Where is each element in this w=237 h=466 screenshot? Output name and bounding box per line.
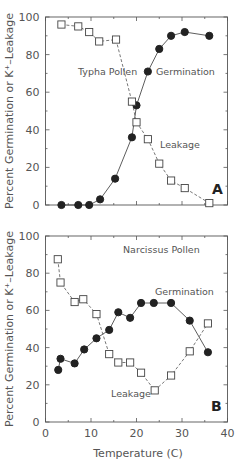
x-axis-title: Temperature (C) xyxy=(92,447,182,460)
x-tick-label: 10 xyxy=(84,427,98,440)
leakage-point xyxy=(156,160,163,167)
leakage-point xyxy=(167,372,174,379)
panel-b-title: Narcissus Pollen xyxy=(123,244,200,255)
y-tick-label: 100 xyxy=(19,11,40,24)
germination-point xyxy=(112,175,119,182)
germination-point xyxy=(71,360,78,367)
germination-point xyxy=(127,314,134,321)
y-tick-label: 0 xyxy=(33,199,40,212)
germination-point xyxy=(57,355,64,362)
leakage-point xyxy=(106,351,113,358)
germination-point xyxy=(167,299,174,306)
leakage-point xyxy=(57,279,64,286)
germination-point xyxy=(115,309,122,316)
y-tick-label: 0 xyxy=(33,416,40,429)
germination-point xyxy=(55,366,62,373)
leakage-point xyxy=(75,23,82,30)
germination-point xyxy=(86,201,93,208)
panel-b-series-lines xyxy=(58,259,208,390)
y-tick-label: 40 xyxy=(26,342,40,355)
leakage-point xyxy=(112,36,119,43)
leakage-point xyxy=(167,177,174,184)
germination-point xyxy=(58,201,65,208)
panel-b-narcissus: 020406080100010203040 Narcissus Pollen G… xyxy=(19,230,235,440)
germination-point xyxy=(106,326,113,333)
panel-a-leakage-label: Leakage xyxy=(160,139,200,150)
panel-a-germination-label: Germination xyxy=(156,66,215,77)
germination-point xyxy=(97,196,104,203)
germination-point xyxy=(137,299,144,306)
y-tick-label: 100 xyxy=(19,230,40,243)
x-tick-label: 40 xyxy=(221,427,235,440)
leakage-point xyxy=(115,359,122,366)
panel-a-letter: A xyxy=(212,181,223,197)
leakage-point xyxy=(151,387,158,394)
leakage-point xyxy=(144,136,151,143)
x-tick-label: 30 xyxy=(175,427,189,440)
y-axis-title-panel-b: Percent Germination or K⁺–Leakage xyxy=(3,231,16,427)
leakage-point xyxy=(137,369,144,376)
chart-figure: Percent Germination or K⁺–Leakage Percen… xyxy=(0,0,237,466)
germination-point xyxy=(93,335,100,342)
leakage-point xyxy=(86,28,93,35)
x-tick-label: 0 xyxy=(42,427,49,440)
germination-point xyxy=(81,346,88,353)
germination-point xyxy=(186,317,193,324)
y-axis-title-panel-a: Percent Germination or K⁺–Leakage xyxy=(3,13,16,209)
leakage-point xyxy=(93,311,100,318)
germination-point xyxy=(128,134,135,141)
y-tick-label: 60 xyxy=(26,304,40,317)
panel-a-typha: 020406080100 Typha Pollen Germination Le… xyxy=(19,11,228,212)
leakage-point xyxy=(127,359,134,366)
y-tick-label: 20 xyxy=(26,161,40,174)
y-tick-label: 40 xyxy=(26,124,40,137)
y-tick-label: 20 xyxy=(26,379,40,392)
germination-point xyxy=(204,349,211,356)
panel-a-series-lines xyxy=(61,25,209,206)
chart-canvas: Percent Germination or K⁺–Leakage Percen… xyxy=(0,0,237,466)
leakage-point xyxy=(206,200,213,207)
panel-b-letter: B xyxy=(211,398,222,414)
panel-a-title: Typha Pollen xyxy=(77,66,137,77)
leakage-point xyxy=(71,298,78,305)
y-tick-label: 60 xyxy=(26,86,40,99)
panel-a-frame xyxy=(46,17,228,205)
leakage-point xyxy=(181,184,188,191)
panel-b-axis-ticks: 020406080100010203040 xyxy=(19,230,235,440)
leakage-point xyxy=(204,320,211,327)
germination-point xyxy=(144,68,151,75)
leakage-point xyxy=(96,38,103,45)
panel-b-data-points xyxy=(54,256,211,394)
leakage-line-panel-b xyxy=(58,259,208,390)
leakage-point xyxy=(186,348,193,355)
germination-point xyxy=(206,32,213,39)
germination-point xyxy=(156,45,163,52)
leakage-point xyxy=(58,21,65,28)
y-tick-label: 80 xyxy=(26,267,40,280)
leakage-point xyxy=(128,98,135,105)
panel-a-axis-ticks: 020406080100 xyxy=(19,11,228,212)
germination-point xyxy=(181,28,188,35)
germination-point xyxy=(75,201,82,208)
x-tick-label: 20 xyxy=(130,427,144,440)
leakage-point xyxy=(133,119,140,126)
y-tick-label: 80 xyxy=(26,49,40,62)
panel-b-leakage-label: Leakage xyxy=(111,388,151,399)
germination-point xyxy=(150,299,157,306)
leakage-point xyxy=(80,296,87,303)
leakage-point xyxy=(54,256,61,263)
panel-b-germination-label: Germination xyxy=(155,286,214,297)
germination-point xyxy=(167,32,174,39)
